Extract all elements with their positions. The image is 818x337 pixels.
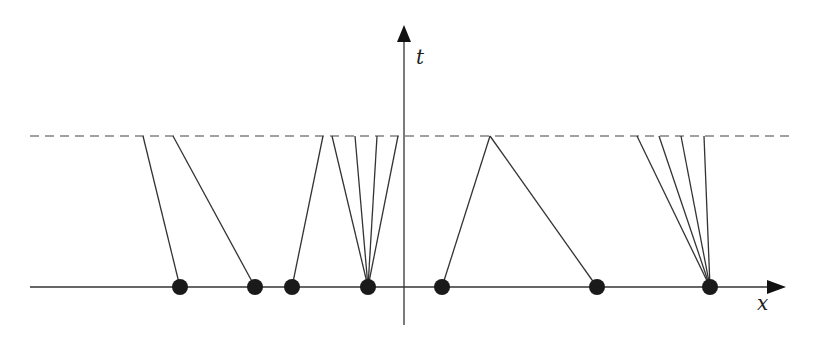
characteristic-line: [704, 136, 710, 287]
point-marker: [172, 279, 188, 295]
characteristic-line: [355, 136, 368, 287]
point-marker: [360, 279, 376, 295]
characteristic-line: [490, 136, 597, 287]
t-axis-label: t: [416, 45, 425, 69]
characteristic-line: [292, 136, 323, 287]
point-marker: [284, 279, 300, 295]
characteristic-line: [659, 136, 710, 287]
x-axis-arrow-icon: [767, 280, 786, 294]
t-axis-arrow-icon: [397, 25, 411, 42]
characteristic-lines: [143, 136, 710, 287]
point-marker: [434, 279, 450, 295]
point-marker: [589, 279, 605, 295]
point-marker: [247, 279, 263, 295]
point-marker: [702, 279, 718, 295]
x-axis-label: x: [757, 291, 768, 315]
characteristic-line: [442, 136, 490, 287]
characteristic-line: [173, 136, 255, 287]
characteristic-line: [637, 136, 710, 287]
characteristics-diagram: x t: [0, 0, 818, 337]
characteristic-line: [332, 136, 368, 287]
characteristic-line: [143, 136, 180, 287]
characteristic-line: [681, 136, 710, 287]
